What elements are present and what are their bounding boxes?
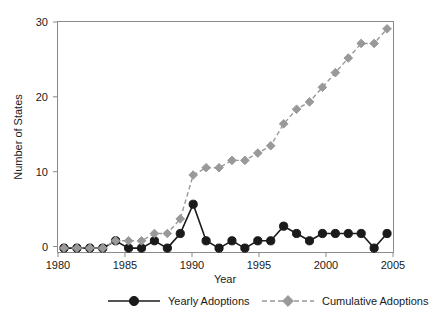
y-tick-label: 20 (36, 91, 48, 103)
x-tick-label: 1980 (46, 259, 70, 271)
y-axis-title: Number of States (12, 94, 24, 180)
legend-marker-yearly (129, 296, 138, 305)
data-point (280, 222, 288, 230)
data-point (318, 229, 326, 237)
data-point (357, 229, 365, 237)
x-tick-label: 2000 (314, 259, 338, 271)
data-point (176, 229, 184, 237)
data-point (331, 229, 339, 237)
data-point (344, 229, 352, 237)
data-point (305, 237, 313, 245)
legend-label-yearly: Yearly Adoptions (168, 295, 250, 307)
legend-label-cumulative: Cumulative Adoptions (322, 295, 429, 307)
y-tick-label: 0 (42, 241, 48, 253)
x-tick-label: 2005 (381, 259, 405, 271)
y-tick-label: 30 (36, 16, 48, 28)
data-point (215, 244, 223, 252)
data-point (383, 229, 391, 237)
data-point (228, 237, 236, 245)
x-tick-label: 1995 (247, 259, 271, 271)
chart-figure: 0 10 20 30 1980 1985 1990 1995 2000 2005… (0, 0, 448, 323)
y-tick-label: 10 (36, 166, 48, 178)
data-point (292, 229, 300, 237)
x-tick-label: 1990 (180, 259, 204, 271)
line-chart: 0 10 20 30 1980 1985 1990 1995 2000 2005… (0, 0, 448, 323)
x-tick-label: 1985 (113, 259, 137, 271)
data-point (163, 244, 171, 252)
data-point (267, 237, 275, 245)
data-point (202, 237, 210, 245)
data-point (370, 244, 378, 252)
x-axis-title: Year (214, 273, 237, 285)
data-point (241, 244, 249, 252)
data-point (254, 237, 262, 245)
data-point (189, 200, 197, 208)
